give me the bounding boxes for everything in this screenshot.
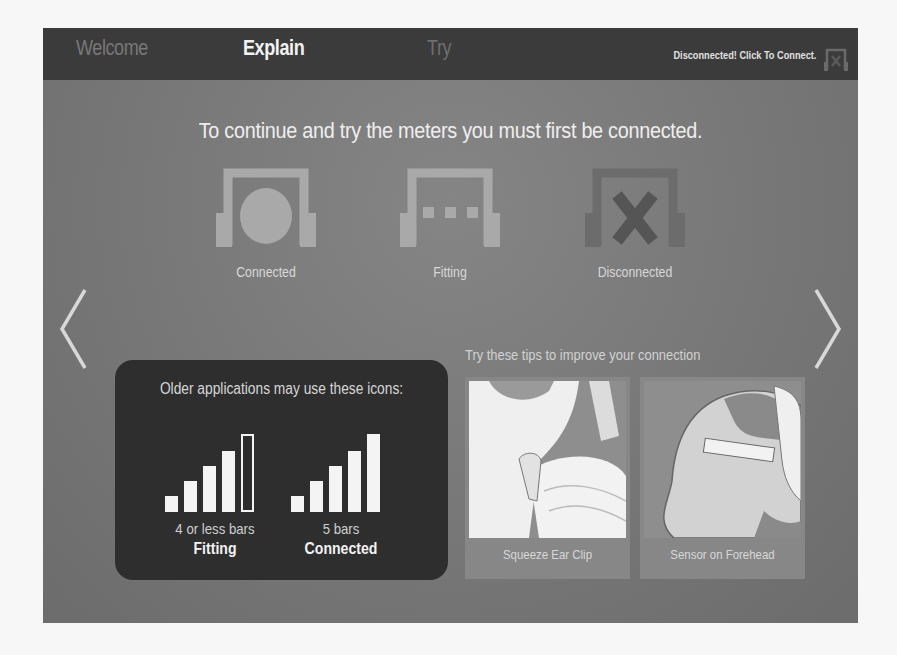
- headset-disconnected-icon: [575, 165, 695, 249]
- chevron-left-icon[interactable]: [58, 284, 88, 374]
- fitting-caption: 4 or less bars: [153, 520, 276, 537]
- status-label-disconnected: Disconnected: [573, 264, 696, 280]
- page-headline: To continue and try the meters you must …: [84, 118, 818, 144]
- tip-sensor-on-forehead[interactable]: Sensor on Forehead: [640, 377, 805, 579]
- top-nav-bar: Welcome Explain Try Disconnected! Click …: [43, 28, 858, 80]
- tab-explain[interactable]: Explain: [243, 35, 304, 61]
- headset-connected-icon: [206, 165, 326, 249]
- tab-welcome[interactable]: Welcome: [76, 35, 148, 61]
- connected-state-label: Connected: [279, 540, 402, 558]
- app-frame: Welcome Explain Try Disconnected! Click …: [43, 28, 858, 623]
- forehead-sensor-illustration: [644, 381, 801, 538]
- tip-squeeze-ear-clip[interactable]: Squeeze Ear Clip: [465, 377, 630, 579]
- status-label-connected: Connected: [204, 264, 327, 280]
- headset-fitting-icon: [390, 165, 510, 249]
- older-apps-panel: Older applications may use these icons: …: [115, 360, 448, 580]
- signal-bars-fitting-icon: [165, 430, 265, 512]
- chevron-right-icon[interactable]: [813, 284, 843, 374]
- connect-link[interactable]: Disconnected! Click To Connect.: [673, 50, 816, 61]
- tip-label: Squeeze Ear Clip: [475, 547, 620, 562]
- signal-bars-connected-icon: [291, 430, 391, 512]
- older-apps-title: Older applications may use these icons:: [138, 380, 424, 398]
- connected-caption: 5 bars: [279, 520, 402, 537]
- tab-try[interactable]: Try: [427, 35, 451, 61]
- fitting-state-label: Fitting: [153, 540, 276, 558]
- ear-clip-illustration: [469, 381, 626, 538]
- status-label-fitting: Fitting: [388, 264, 511, 280]
- tips-title: Try these tips to improve your connectio…: [465, 346, 700, 363]
- tip-label: Sensor on Forehead: [650, 547, 795, 562]
- headset-disconnected-icon[interactable]: [824, 47, 848, 73]
